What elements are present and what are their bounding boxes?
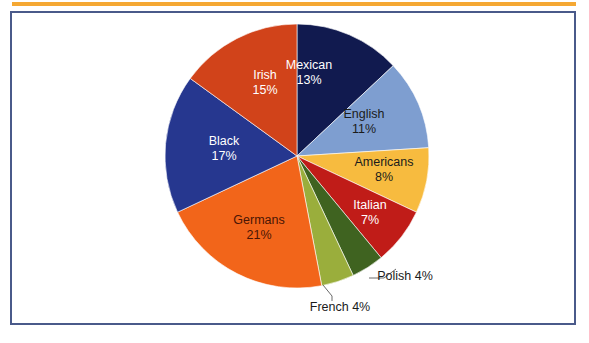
figure-frame: Mexican 13% English 11% Americans 8% Ita…	[10, 11, 576, 325]
pie-chart-svg	[12, 13, 578, 327]
top-orange-rule	[12, 2, 576, 6]
pie-slice-group	[165, 24, 429, 288]
leader-line-polish	[369, 269, 396, 278]
pie-chart: Mexican 13% English 11% Americans 8% Ita…	[12, 13, 578, 327]
leader-line-french	[323, 285, 332, 301]
